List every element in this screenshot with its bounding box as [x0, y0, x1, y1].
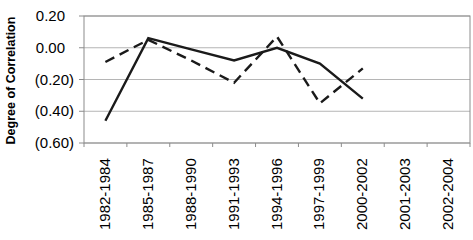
x-tick-label: 2001-2003 — [396, 158, 413, 230]
x-tick-label: 1988-1990 — [182, 158, 199, 230]
y-tick-label: (0.60) — [35, 134, 74, 151]
x-tick-label: 2002-2004 — [439, 158, 456, 230]
x-tick-label: 1982-1984 — [96, 158, 113, 230]
x-tick-label: 2000-2002 — [353, 158, 370, 230]
x-tick-label: 1997-1999 — [310, 158, 327, 230]
x-tick-label: 1991-1993 — [225, 158, 242, 230]
y-tick-label: (0.40) — [35, 102, 74, 119]
x-tick-label: 1985-1987 — [139, 158, 156, 230]
y-tick-label: 0.20 — [36, 7, 65, 24]
chart-container: Degree of Correlation 0.200.00(0.20)(0.4… — [0, 0, 473, 240]
y-tick-label: (0.20) — [35, 71, 74, 88]
x-tick-label: 1994-1996 — [268, 158, 285, 230]
y-tick-label: 0.00 — [36, 39, 65, 56]
y-axis-title: Degree of Correlation — [4, 8, 21, 154]
correlation-line-chart: 0.200.00(0.20)(0.40)(0.60)1982-19841985-… — [0, 0, 473, 240]
